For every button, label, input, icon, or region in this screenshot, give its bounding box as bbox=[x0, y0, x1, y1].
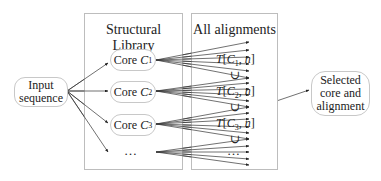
alignment-term-1: T[C1, n] bbox=[216, 52, 255, 68]
alignment-ellipsis: … bbox=[227, 143, 240, 159]
core-c1-node: Core C1 bbox=[110, 49, 156, 71]
term-1-var: C bbox=[227, 52, 235, 66]
alignment-term-2: T[C2, n] bbox=[216, 84, 255, 100]
core-c2-prefix: Core bbox=[114, 86, 140, 99]
core-ellipsis: … bbox=[124, 143, 137, 159]
alignment-term-3: T[C3, n] bbox=[216, 116, 255, 132]
term-3-close: ] bbox=[251, 116, 255, 130]
core-c3-node: Core C3 bbox=[110, 114, 156, 136]
term-3-T: T bbox=[216, 116, 223, 130]
term-2-T: T bbox=[216, 84, 223, 98]
core-c1-prefix: Core bbox=[114, 54, 140, 67]
core-c1-sub: 1 bbox=[148, 54, 152, 67]
term-3-var: C bbox=[227, 116, 235, 130]
union-2: ∪ bbox=[230, 100, 240, 115]
core-c1-var: C bbox=[140, 54, 148, 67]
core-c3-sub: 3 bbox=[148, 119, 152, 132]
input-node-line2: sequence bbox=[19, 92, 63, 105]
core-c2-node: Core C2 bbox=[110, 81, 156, 103]
union-1: ∪ bbox=[230, 68, 240, 83]
output-node-line3: alignment bbox=[317, 100, 365, 113]
core-c2-sub: 2 bbox=[148, 86, 152, 99]
core-c3-var: C bbox=[140, 119, 148, 132]
term-2-close: ] bbox=[251, 84, 255, 98]
input-sequence-node: Input sequence bbox=[14, 77, 68, 107]
term-2-var: C bbox=[227, 84, 235, 98]
core-c3-prefix: Core bbox=[114, 119, 140, 132]
term-1-close: ] bbox=[251, 52, 255, 66]
selected-core-alignment-node: Selected core and alignment bbox=[311, 71, 370, 116]
core-c2-var: C bbox=[140, 86, 148, 99]
term-1-T: T bbox=[216, 52, 223, 66]
